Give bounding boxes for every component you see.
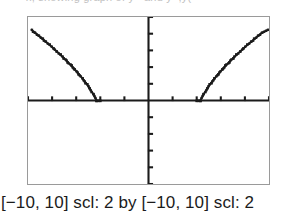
calculator-viewing-window xyxy=(27,16,270,185)
cut-off-text: x, showing graph of y= and y=,y( xyxy=(0,0,191,3)
cut-off-text-above: x, showing graph of y= and y=,y( xyxy=(0,0,296,7)
calculator-figure: x, showing graph of y= and y=,y( [−10, 1… xyxy=(0,0,296,222)
plotted-curves xyxy=(31,29,269,103)
window-range-caption: [−10, 10] scl: 2 by [−10, 10] scl: 2 xyxy=(1,192,295,214)
graph-canvas xyxy=(28,17,269,184)
